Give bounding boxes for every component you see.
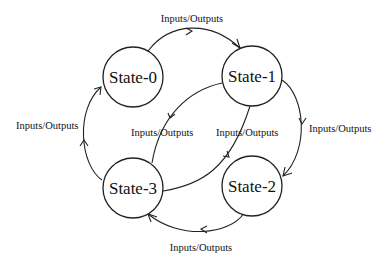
edge-label-state3-to-state0: Inputs/Outputs — [16, 120, 78, 131]
state-label: State-3 — [109, 179, 157, 198]
state-node-2: State-2 — [222, 156, 282, 216]
edge-state1-to-state3 — [152, 83, 222, 163]
state-node-3: State-3 — [103, 158, 163, 218]
state-node-1: State-1 — [222, 46, 282, 106]
edge-state3-to-state0 — [83, 87, 102, 180]
edge-state0-to-state1 — [148, 28, 240, 51]
arrowhead-state0-to-state1 — [232, 39, 240, 48]
state-diagram: State-0 State-1 State-2 State-3 Inputs/O… — [0, 0, 386, 266]
edge-state1-to-state2 — [282, 80, 301, 176]
edge-state2-to-state3 — [148, 213, 244, 232]
edge-label-state2-to-state3: Inputs/Outputs — [170, 242, 232, 253]
state-label: State-0 — [109, 68, 157, 87]
state-node-0: State-0 — [103, 47, 163, 107]
edge-label-state3-to-state1: Inputs/Outputs — [216, 127, 278, 138]
edge-label-state0-to-state1: Inputs/Outputs — [161, 13, 223, 24]
state-label: State-1 — [228, 67, 276, 86]
arrowhead-mid-state1-to-state2 — [299, 118, 306, 124]
edge-label-state1-to-state3: Inputs/Outputs — [131, 127, 193, 138]
arrowhead-mid-state3-to-state1 — [223, 151, 229, 157]
state-label: State-2 — [228, 177, 276, 196]
arrowhead-mid-state0-to-state1 — [186, 28, 192, 35]
edge-label-state1-to-state2: Inputs/Outputs — [309, 123, 371, 134]
